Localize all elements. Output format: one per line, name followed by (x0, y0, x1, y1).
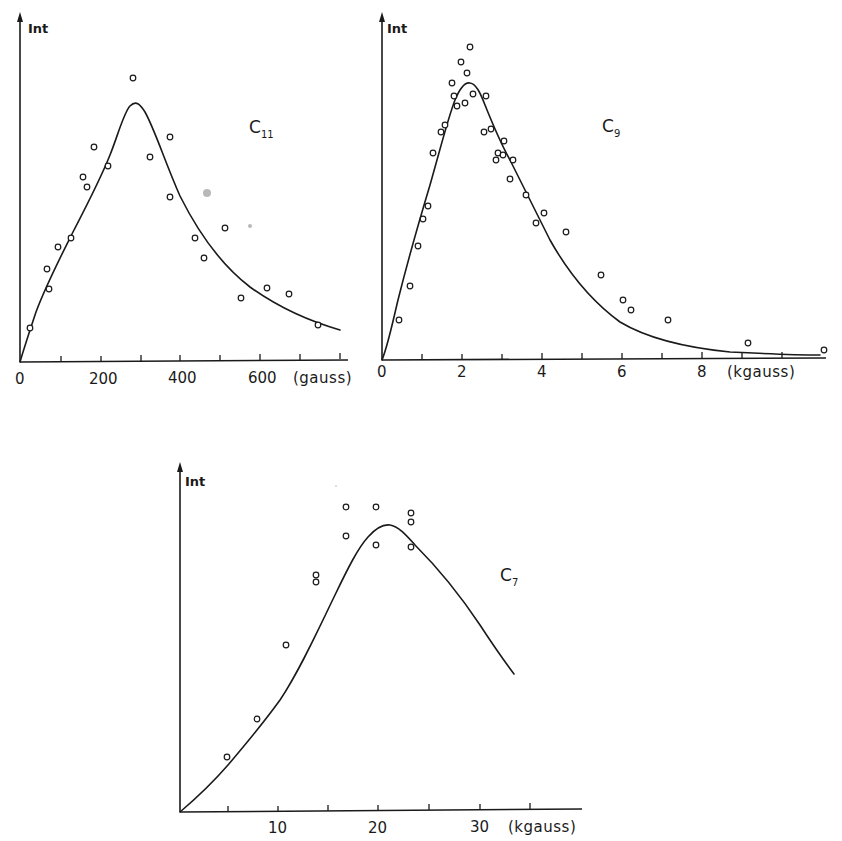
c7-tick-30: 30 (470, 818, 489, 836)
c9-tick-8: 8 (697, 363, 707, 381)
c7-data-points (224, 504, 414, 760)
c9-tick-6: 6 (617, 363, 627, 381)
c11-y-label: Int (28, 21, 48, 36)
c7-print-speck (335, 485, 337, 487)
c9-y-label: Int (387, 21, 407, 36)
c9-x-unit-label: (kgauss) (727, 363, 795, 381)
c11-fit-curve (20, 103, 340, 362)
c11-x-axis (20, 360, 348, 362)
c7-tick-20: 20 (368, 819, 387, 837)
panel-c7: 10 20 30 (kgauss) Int C7 (177, 462, 582, 837)
c11-print-smudges (203, 189, 252, 228)
c9-tick-0: 0 (377, 363, 387, 381)
c9-tick-2: 2 (457, 363, 467, 381)
c9-series-label: C9 (602, 116, 620, 139)
c7-y-axis-arrow-icon (177, 462, 183, 472)
c7-fit-curve (180, 525, 514, 812)
c9-tick-4: 4 (537, 363, 547, 381)
c11-x-unit-label: (gauss) (293, 369, 352, 387)
c9-y-axis-arrow-icon (379, 12, 385, 22)
c7-x-axis (180, 809, 582, 812)
c11-tick-400: 400 (168, 369, 197, 387)
c9-data-points (396, 44, 827, 353)
c7-x-unit-label: (kgauss) (508, 818, 576, 836)
c11-tick-0: 0 (15, 370, 25, 388)
c7-tick-10: 10 (268, 819, 287, 837)
figure: 0 200 400 600 (gauss) Int C11 (0, 0, 842, 841)
c7-series-label: C7 (500, 565, 518, 588)
c11-tick-600: 600 (248, 369, 277, 387)
c11-data-points (27, 75, 321, 331)
panel-c9: 0 2 4 6 8 (kgauss) Int C9 (377, 12, 827, 381)
c9-x-axis (382, 358, 826, 360)
panel-c11: 0 200 400 600 (gauss) Int C11 (15, 12, 352, 388)
c11-y-axis-arrow-icon (17, 12, 23, 22)
c7-y-label: Int (185, 474, 205, 489)
c11-series-label: C11 (249, 117, 274, 140)
c11-tick-200: 200 (89, 370, 118, 388)
